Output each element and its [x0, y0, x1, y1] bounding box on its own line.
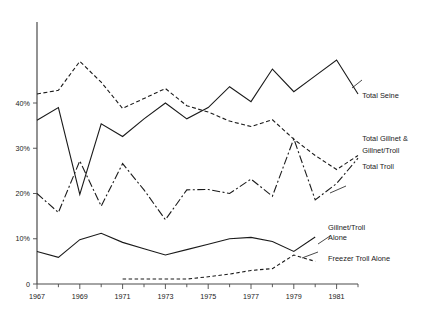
series-path-freezer-troll-alone	[123, 255, 316, 279]
x-axis-tick-label: 1971	[115, 292, 131, 301]
series-label: Gillnet/Troll	[328, 223, 365, 232]
series-label: Total Seine	[362, 91, 399, 100]
x-axis-tick-label: 1977	[243, 292, 259, 301]
x-axis-tick-label: 1973	[157, 292, 173, 301]
series-label: Alone	[328, 233, 347, 242]
y-axis-tick-label: 40%	[16, 99, 31, 108]
line-chart: 010%20%30%40% 19671969197119731975197719…	[0, 0, 427, 315]
data-series-group	[37, 60, 358, 279]
series-label: Total Troll	[362, 162, 394, 171]
x-axis-tick-label: 1967	[29, 292, 45, 301]
x-axis-tick-label: 1981	[329, 292, 345, 301]
y-axis-tick-label: 10%	[16, 234, 31, 243]
y-axis-tick-label: 30%	[16, 144, 31, 153]
series-label: Total Gillnet &	[362, 134, 408, 143]
series-label: Freezer Troll Alone	[328, 254, 390, 263]
series-labels-group: Total SeineTotal Gillnet &Gillnet/TrollT…	[302, 80, 408, 263]
label-leader-line	[330, 186, 346, 193]
x-axis-tick-label: 1975	[200, 292, 216, 301]
x-axis-tick-label: 1969	[72, 292, 88, 301]
y-axis-tick-label: 0	[26, 280, 30, 289]
chart-container: 010%20%30%40% 19671969197119731975197719…	[0, 0, 427, 315]
series-label: Gillnet/Troll	[362, 146, 399, 155]
y-axis-tick-label: 20%	[16, 189, 31, 198]
x-axis: 19671969197119731975197719791981	[29, 284, 358, 301]
series-path-total-gillnet-gillnet-troll	[37, 60, 358, 194]
label-leader-line	[302, 252, 318, 258]
series-path-total-seine	[37, 61, 358, 169]
series-path-gillnet-troll-alone	[37, 233, 315, 257]
y-axis: 010%20%30%40%	[16, 22, 37, 289]
x-axis-tick-label: 1979	[286, 292, 302, 301]
label-leader-line	[352, 80, 362, 88]
